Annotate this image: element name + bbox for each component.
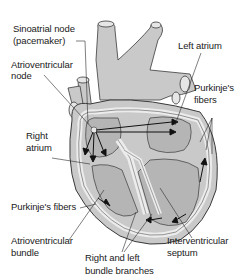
label-purkinje-left: Purkinje's fibers: [11, 202, 76, 213]
label-septum: Interventricular: [167, 236, 228, 247]
label-purkinje-right-line2: fibers: [194, 94, 217, 105]
label-right-atrium-2: atrium: [26, 143, 52, 154]
heart-conduction-diagram: Sinoatrial node (pacemaker) Atrioventric…: [0, 0, 246, 280]
label-av-node-line2: node: [11, 70, 32, 81]
label-av-bundle-2: bundle: [11, 248, 39, 259]
label-septum-line1: Interventricular: [167, 235, 228, 246]
label-left-atrium-text: Left atrium: [178, 40, 222, 51]
label-av-node-2: node: [11, 71, 32, 82]
label-bundle-branches-line2: bundle branches: [85, 265, 154, 276]
label-purkinje-right: Purkinje's: [194, 83, 234, 94]
label-septum-2: septum: [167, 248, 198, 259]
label-purkinje-right-line1: Purkinje's: [194, 82, 234, 93]
label-pacemaker: (pacemaker): [13, 36, 65, 47]
label-av-node-line1: Atrioventricular: [11, 59, 73, 70]
label-av-bundle-line1: Atrioventricular: [11, 235, 73, 246]
label-av-bundle-line2: bundle: [11, 247, 39, 258]
label-bundle-branches-2: bundle branches: [85, 266, 154, 277]
label-sinoatrial-node-line2: (pacemaker): [13, 35, 65, 46]
label-septum-line2: septum: [167, 247, 198, 258]
label-left-atrium: Left atrium: [178, 41, 222, 52]
label-av-node: Atrioventricular: [11, 60, 73, 71]
label-right-atrium: Right: [26, 131, 48, 142]
label-bundle-branches-line1: Right and left: [85, 252, 140, 263]
label-right-atrium-line2: atrium: [26, 142, 52, 153]
label-purkinje-left-text: Purkinje's fibers: [11, 201, 76, 212]
label-purkinje-right-2: fibers: [194, 95, 217, 106]
label-av-bundle: Atrioventricular: [11, 236, 73, 247]
label-bundle-branches: Right and left: [85, 253, 140, 264]
label-sinoatrial-node-line1: Sinoatrial node: [13, 23, 75, 34]
label-right-atrium-line1: Right: [26, 130, 48, 141]
label-sinoatrial-node: Sinoatrial node: [13, 24, 75, 35]
